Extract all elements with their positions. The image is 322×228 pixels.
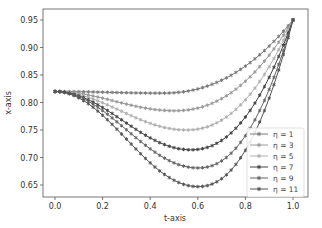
x-tick-label: 0.4 <box>144 202 157 211</box>
x-tick-label: 0.6 <box>191 202 204 211</box>
x-axis-label: t-axis <box>164 214 186 223</box>
y-axis-label: x-axis <box>4 91 13 115</box>
legend-label: η = 7 <box>273 163 294 172</box>
x-tick-label: 1.0 <box>287 202 300 211</box>
x-tick-label: 0.2 <box>96 202 109 211</box>
x-tick-label: 0.0 <box>49 202 62 211</box>
legend: η = 1η = 3η = 5η = 7η = 9η = 11 <box>247 128 304 197</box>
x-axis-ticks: 0.00.20.40.60.81.0 <box>49 197 300 211</box>
legend-label: η = 1 <box>273 130 294 139</box>
x-tick-label: 0.8 <box>239 202 252 211</box>
y-tick-label: 0.80 <box>20 99 38 108</box>
legend-label: η = 3 <box>273 141 294 150</box>
legend-label: η = 5 <box>273 152 294 161</box>
y-tick-label: 0.70 <box>20 154 38 163</box>
y-tick-label: 0.90 <box>20 44 38 53</box>
y-axis-ticks: 0.650.700.750.800.850.900.95 <box>20 16 43 190</box>
legend-label: η = 11 <box>273 185 299 194</box>
legend-label: η = 9 <box>273 174 294 183</box>
line-chart: 0.650.700.750.800.850.900.95 0.00.20.40.… <box>0 0 322 228</box>
y-tick-label: 0.95 <box>20 16 38 25</box>
y-tick-label: 0.75 <box>20 126 38 135</box>
y-tick-label: 0.85 <box>20 71 38 80</box>
y-tick-label: 0.65 <box>20 181 38 190</box>
